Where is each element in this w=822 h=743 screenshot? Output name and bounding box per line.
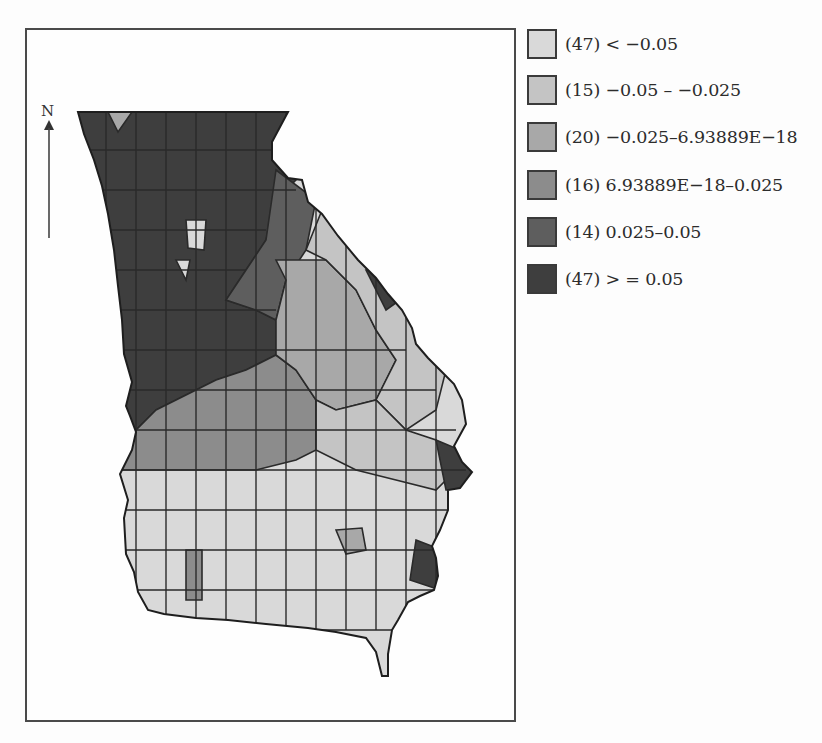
legend-label: (14) 0.025–0.05 xyxy=(565,222,701,242)
legend-swatch xyxy=(527,217,557,247)
georgia-county-map xyxy=(76,110,476,680)
legend-swatch xyxy=(527,29,557,59)
legend-swatch xyxy=(527,75,557,105)
legend-item-class-5: (14) 0.025–0.05 xyxy=(527,216,701,248)
legend-label: (16) 6.93889E−18–0.025 xyxy=(565,175,783,195)
legend-swatch xyxy=(527,170,557,200)
north-arrow-icon xyxy=(42,120,56,240)
legend-item-class-6: (47) > = 0.05 xyxy=(527,263,683,295)
legend-item-class-2: (15) −0.05 – −0.025 xyxy=(527,74,741,106)
legend-swatch xyxy=(527,122,557,152)
legend-item-class-3: (20) −0.025–6.93889E−18 xyxy=(527,121,797,153)
legend-item-class-1: (47) < −0.05 xyxy=(527,28,678,60)
legend-label: (20) −0.025–6.93889E−18 xyxy=(565,127,797,147)
north-arrow: N xyxy=(40,102,60,242)
legend-label: (47) > = 0.05 xyxy=(565,269,683,289)
legend-swatch xyxy=(527,264,557,294)
legend-label: (47) < −0.05 xyxy=(565,34,678,54)
north-label: N xyxy=(41,102,54,120)
legend-item-class-4: (16) 6.93889E−18–0.025 xyxy=(527,169,783,201)
legend-label: (15) −0.05 – −0.025 xyxy=(565,80,741,100)
